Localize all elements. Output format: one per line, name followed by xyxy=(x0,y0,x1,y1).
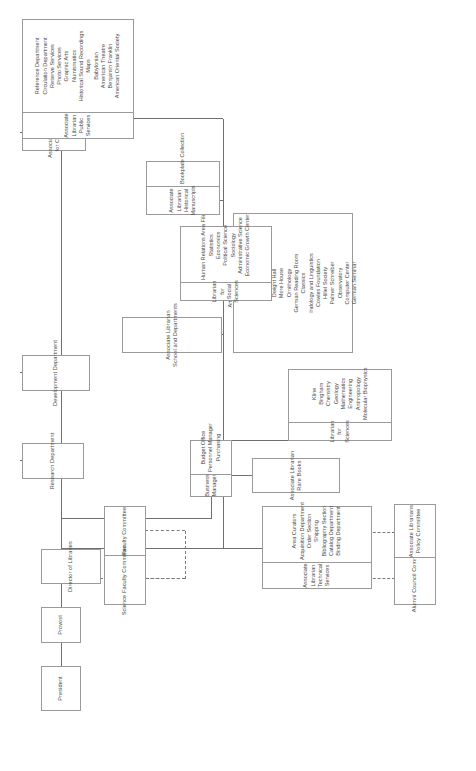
connector-president-provost xyxy=(61,643,62,666)
node-school-departments-line-2: School and Departments xyxy=(172,303,179,367)
list-item: German Seminar xyxy=(351,262,358,305)
list-item: Economic Growth Center xyxy=(244,214,251,277)
connector-drop-sciences xyxy=(223,440,288,441)
list-item: Geology xyxy=(333,383,340,404)
list-item: Dwight Hall xyxy=(271,269,278,297)
node-associate-librarian-public-services[interactable]: Associate Librarian Public Services Refe… xyxy=(22,19,134,139)
node-development-department-label: Development Department xyxy=(52,340,59,406)
node-provost-label: Provost xyxy=(57,615,64,635)
list-item: Sociology xyxy=(230,233,237,257)
public-services-header: Associate Librarian Public Services xyxy=(23,112,133,138)
list-item: Palmer Schreiber xyxy=(329,261,336,304)
node-director-of-libraries[interactable]: Director of Libraries xyxy=(41,549,101,584)
node-school-departments-line-1: Associate Librarian xyxy=(165,310,172,359)
list-item: Political Science xyxy=(222,225,229,266)
sciences-header: Librarian for Sciences xyxy=(289,422,391,440)
list-item: Budget Office xyxy=(200,431,207,465)
technical-services-header: Associate Librarian Technical Services xyxy=(263,562,371,588)
list-item: Kline xyxy=(311,388,318,400)
list-item: Reference Department xyxy=(34,38,41,95)
list-item: Purchasing xyxy=(215,434,222,462)
list-item: Historical Sound Recordings xyxy=(78,31,85,102)
list-item: Babylonian xyxy=(93,52,100,80)
list-item: Benjamin Franklin xyxy=(107,44,114,89)
list-item: Circulation Department xyxy=(42,37,49,94)
list-item: Chemistry xyxy=(325,381,332,406)
node-president[interactable]: President xyxy=(41,666,81,711)
node-associate-librarian-rare-books[interactable]: Associate Librarian Rare Books xyxy=(252,458,340,493)
connector-provost-director xyxy=(61,584,62,607)
business-manager-items: Budget Office Personnel Manager Purchasi… xyxy=(191,421,231,474)
public-services-header-line-1: Associate Librarian xyxy=(63,113,78,137)
node-research-department[interactable]: Research Department xyxy=(22,443,84,479)
node-associate-librarian-technical-services[interactable]: Associate Librarian Technical Services A… xyxy=(262,506,372,589)
list-item: American Theatre xyxy=(100,44,107,88)
node-librarian-for-sciences[interactable]: Librarian for Sciences Kline Bingham Che… xyxy=(288,369,392,441)
node-research-department-label: Research Department xyxy=(49,433,56,490)
node-business-manager[interactable]: Business Manager Budget Office Personnel… xyxy=(190,440,232,497)
node-science-faculty-committee[interactable]: Science Faculty Committee xyxy=(104,555,146,605)
connector-branch-business-manager xyxy=(211,497,212,519)
list-item: Administrative Science xyxy=(237,217,244,274)
dashed-faculty-committee-drop xyxy=(145,530,185,531)
public-services-header-line-2: Public Services xyxy=(78,115,93,136)
list-item: Binding Department xyxy=(335,506,342,555)
node-librarian-for-social-sciences[interactable]: Librarian for Social Sciences Human Rela… xyxy=(180,226,272,301)
node-policy-committee-line-1: Associate Librarians xyxy=(408,505,415,557)
list-item: Statistics xyxy=(208,234,215,256)
technical-services-header-line-1: Associate Librarian xyxy=(302,563,317,587)
list-item: Human Relations Area Files xyxy=(200,211,207,280)
list-item: Computer Center xyxy=(344,262,351,305)
node-alumni-council-committee[interactable]: Alumni Council Committee xyxy=(394,551,436,605)
dashed-science-faculty-committee-drop xyxy=(145,578,185,579)
node-president-label: President xyxy=(57,676,64,701)
list-item: Maps xyxy=(85,59,92,73)
list-item: Reserve Services xyxy=(49,44,56,88)
historical-manuscripts-items: Bookplate Collection xyxy=(147,131,219,186)
list-item: Bookplate Collection xyxy=(179,133,186,184)
list-item: American Oriental Society xyxy=(114,34,121,99)
list-item: Hillel Society xyxy=(322,267,329,299)
historical-manuscripts-header-line-2: Historical Manuscripts xyxy=(183,185,198,215)
list-item: Mathematics xyxy=(340,378,347,410)
technical-services-items: Area Curators Acquisition Department Ord… xyxy=(263,500,371,562)
sciences-items: Kline Bingham Chemistry Geology Mathemat… xyxy=(289,365,391,422)
list-item: Economics xyxy=(215,232,222,259)
sciences-header-label: Librarian for Sciences xyxy=(329,420,351,443)
node-policy-committee-line-2: Policy Committee xyxy=(415,508,422,553)
list-item: Personnel Manager xyxy=(207,423,214,472)
connector-director-spine xyxy=(61,99,62,549)
business-manager-header-label: Business Manager xyxy=(204,474,219,497)
list-item: Bingham xyxy=(318,383,325,405)
list-item: More House xyxy=(278,268,285,298)
list-item: Classics xyxy=(300,273,307,294)
list-item: Bibliography Section xyxy=(321,506,328,557)
list-item: German Reading Room xyxy=(293,253,300,312)
list-item: Catalog Department xyxy=(328,506,335,556)
node-rare-books-line-2: Rare Books xyxy=(296,460,303,490)
dashed-committee-bridge-upper xyxy=(185,531,186,579)
node-rare-books-line-1: Associate Librarian xyxy=(289,451,296,500)
list-item: Shipping xyxy=(313,520,320,542)
social-sciences-items: Human Relations Area Files Statistics Ec… xyxy=(181,209,271,282)
list-item: Molecular Biophysics xyxy=(362,367,369,420)
historical-manuscripts-header-line-1: Associate Librarian xyxy=(168,188,183,212)
node-associate-librarian-historical-manuscripts[interactable]: Associate Librarian Historical Manuscrip… xyxy=(146,161,220,215)
list-item: Engineering xyxy=(347,379,354,409)
org-chart-canvas: President Provost Director of Libraries … xyxy=(0,0,476,771)
historical-manuscripts-header: Associate Librarian Historical Manuscrip… xyxy=(147,186,219,214)
list-item: Numismatics xyxy=(71,50,78,82)
list-item: Area Curators xyxy=(291,514,298,549)
list-item: Ornithology xyxy=(286,269,293,298)
social-sciences-header: Librarian for Social Sciences xyxy=(181,282,271,300)
list-item: Graphic Arts xyxy=(63,51,70,82)
technical-services-header-line-2: Technical Services xyxy=(317,564,332,587)
node-development-department[interactable]: Development Department xyxy=(22,355,90,391)
node-associate-librarians-policy-committee[interactable]: Associate Librarians Policy Committee xyxy=(394,504,436,558)
node-associate-librarian-school-and-departments[interactable]: Associate Librarian School and Departmen… xyxy=(122,317,222,353)
list-item: Observatory xyxy=(337,268,344,298)
node-science-faculty-committee-label: Science Faculty Committee xyxy=(121,545,128,616)
list-item: Cowles Foundation xyxy=(315,259,322,307)
public-services-items: Reference Department Circulation Departm… xyxy=(23,20,133,112)
node-provost[interactable]: Provost xyxy=(41,607,81,643)
